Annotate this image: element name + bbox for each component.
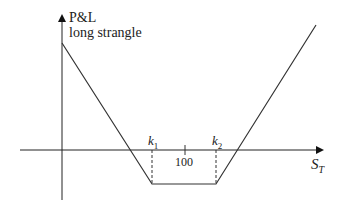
k2-label: k2	[212, 133, 222, 151]
y-axis-label-line2: long strangle	[69, 25, 142, 41]
k1-sub: 1	[154, 141, 159, 151]
y-axis-label-line1: P&L	[69, 10, 142, 26]
x-axis-sub: T	[319, 164, 325, 175]
strangle-diagram: P&L long strangle k1 k2 100 ST	[0, 0, 340, 206]
y-axis-label: P&L long strangle	[69, 10, 142, 41]
x-axis-letter: S	[311, 156, 319, 172]
k1-label: k1	[148, 133, 158, 151]
tick-label-100: 100	[175, 155, 193, 170]
k2-sub: 2	[218, 141, 223, 151]
x-axis-label: ST	[311, 156, 324, 175]
payoff-plot	[0, 0, 340, 206]
